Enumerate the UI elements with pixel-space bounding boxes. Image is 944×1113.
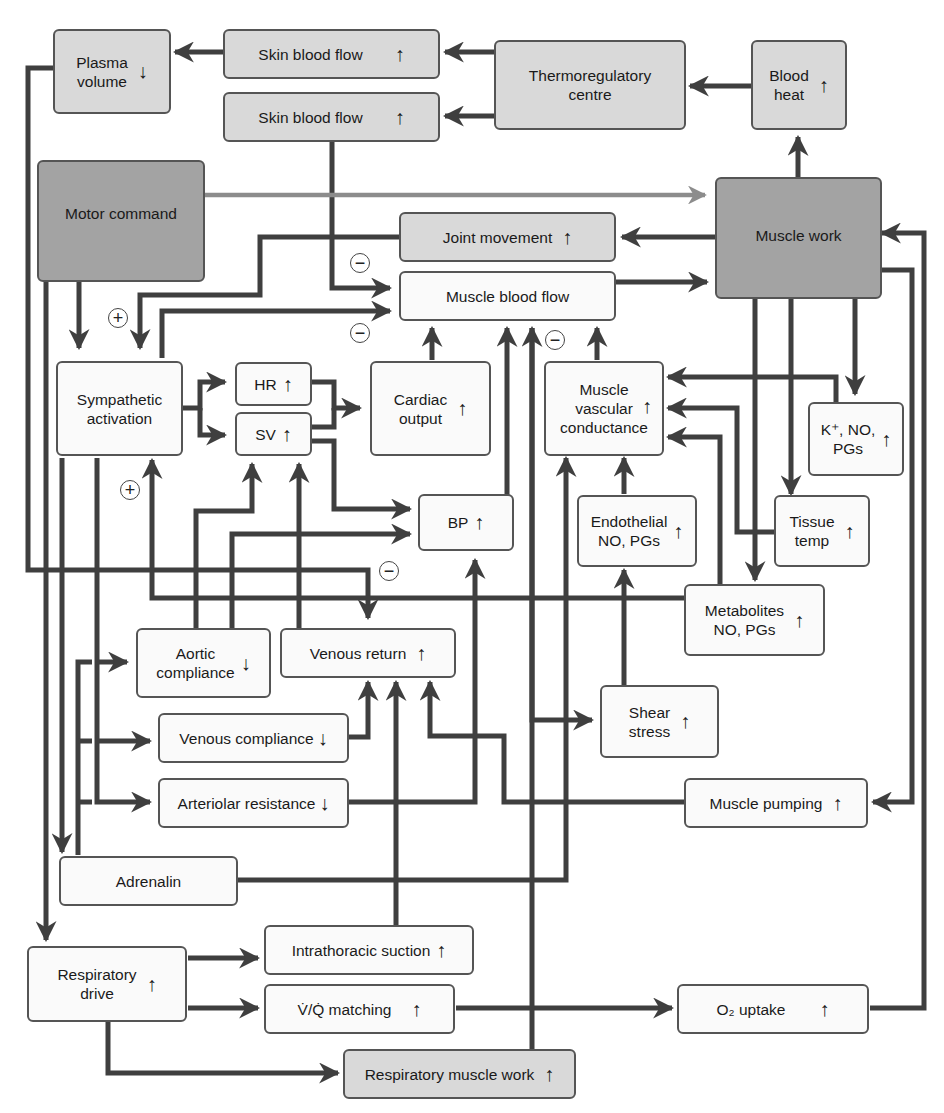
node-label: Aortic compliance bbox=[156, 644, 234, 682]
node-label: Muscle blood flow bbox=[446, 287, 569, 306]
arrow-up-icon: ↑ bbox=[544, 1065, 554, 1084]
node-label: Metabolites NO, PGs bbox=[705, 601, 784, 639]
node-label: Thermoregulatory centre bbox=[529, 66, 651, 104]
arrow-up-icon: ↑ bbox=[680, 712, 690, 731]
plus-sign-icon: + bbox=[108, 308, 128, 328]
arteriolar-resistance-box: Arteriolar resistance ↓ bbox=[158, 778, 349, 828]
arrow-up-icon: ↑ bbox=[395, 45, 405, 64]
arrow-up-icon: ↑ bbox=[411, 1000, 421, 1019]
node-label: SV bbox=[255, 425, 276, 444]
node-label: Intrathoracic suction bbox=[292, 941, 431, 960]
muscle-pumping-box: Muscle pumping ↑ bbox=[684, 778, 868, 828]
hr-box: HR ↑ bbox=[235, 362, 312, 406]
node-label: V̇/Q̇ matching bbox=[298, 1000, 392, 1019]
node-label: Motor command bbox=[65, 204, 177, 223]
node-label: Adrenalin bbox=[116, 872, 182, 891]
muscle-blood-flow-box: Muscle blood flow bbox=[399, 271, 616, 321]
arrow-down-icon: ↓ bbox=[241, 654, 251, 673]
adrenalin-box: Adrenalin bbox=[59, 856, 238, 906]
skin-blood-flow-box-1: Skin blood flow ↑ bbox=[223, 29, 440, 79]
node-label: Endothelial NO, PGs bbox=[591, 512, 668, 550]
node-label: Plasma volume bbox=[76, 53, 128, 91]
physiology-flow-diagram: Plasma volume ↓ Skin blood flow ↑ Skin b… bbox=[0, 0, 944, 1113]
arrow-up-icon: ↑ bbox=[457, 399, 467, 418]
k-no-pgs-box: K⁺, NO, PGs ↑ bbox=[808, 402, 904, 476]
shear-stress-box: Shear stress ↑ bbox=[600, 685, 719, 758]
bp-box: BP ↑ bbox=[418, 494, 514, 551]
skin-blood-flow-box-2: Skin blood flow ↑ bbox=[223, 92, 440, 142]
node-label: O₂ uptake bbox=[717, 1000, 786, 1019]
metabolites-box: Metabolites NO, PGs ↑ bbox=[684, 584, 825, 656]
node-label: Skin blood flow bbox=[258, 108, 362, 127]
arrow-up-icon: ↑ bbox=[642, 397, 652, 416]
node-label: Skin blood flow bbox=[258, 45, 362, 64]
aortic-compliance-box: Aortic compliance ↓ bbox=[136, 628, 271, 698]
arrow-up-icon: ↑ bbox=[395, 108, 405, 127]
arrow-up-icon: ↑ bbox=[881, 430, 891, 449]
node-label: Shear stress bbox=[629, 703, 670, 741]
venous-compliance-box: Venous compliance ↓ bbox=[158, 713, 349, 763]
node-label: Muscle work bbox=[755, 226, 841, 245]
venous-return-box: Venous return ↑ bbox=[280, 628, 456, 678]
muscle-work-box: Muscle work bbox=[715, 177, 882, 299]
node-label: Tissue temp bbox=[789, 512, 834, 550]
plus-sign-icon: + bbox=[120, 480, 140, 500]
node-label: Respiratory muscle work bbox=[365, 1065, 535, 1084]
plasma-volume-box: Plasma volume ↓ bbox=[53, 29, 171, 114]
node-label: K⁺, NO, PGs bbox=[821, 420, 876, 458]
node-label: Sympathetic activation bbox=[77, 390, 162, 428]
node-label: Venous return bbox=[310, 644, 407, 663]
vq-matching-box: V̇/Q̇ matching ↑ bbox=[264, 984, 455, 1034]
node-label: BP bbox=[448, 513, 469, 532]
node-label: HR bbox=[254, 375, 276, 394]
arrow-down-icon: ↓ bbox=[318, 729, 328, 748]
arrow-down-icon: ↓ bbox=[319, 794, 329, 813]
arrow-down-icon: ↓ bbox=[138, 62, 148, 81]
minus-sign-icon: − bbox=[350, 323, 370, 343]
arrow-up-icon: ↑ bbox=[673, 522, 683, 541]
arrow-up-icon: ↑ bbox=[416, 644, 426, 663]
node-label: Muscle vascular conductance bbox=[560, 380, 648, 437]
arrow-up-icon: ↑ bbox=[562, 228, 572, 247]
minus-sign-icon: − bbox=[545, 330, 565, 350]
minus-sign-icon: − bbox=[379, 561, 399, 581]
muscle-vascular-conductance-box: Muscle vascular conductance ↑ bbox=[544, 361, 664, 456]
node-label: Respiratory drive bbox=[57, 965, 136, 1003]
arrow-up-icon: ↑ bbox=[282, 425, 292, 444]
arrow-up-icon: ↑ bbox=[147, 975, 157, 994]
sympathetic-activation-box: Sympathetic activation bbox=[56, 361, 183, 456]
endothelial-no-pgs-box: Endothelial NO, PGs ↑ bbox=[577, 495, 697, 567]
o2-uptake-box: O₂ uptake ↑ bbox=[677, 984, 869, 1034]
arrow-up-icon: ↑ bbox=[283, 375, 293, 394]
node-label: Arteriolar resistance bbox=[178, 794, 316, 813]
arrow-up-icon: ↑ bbox=[819, 76, 829, 95]
arrow-up-icon: ↑ bbox=[845, 522, 855, 541]
arrow-up-icon: ↑ bbox=[794, 611, 804, 630]
joint-movement-box: Joint movement ↑ bbox=[399, 212, 616, 262]
arrow-up-icon: ↑ bbox=[819, 1000, 829, 1019]
respiratory-muscle-work-box: Respiratory muscle work ↑ bbox=[343, 1049, 576, 1099]
blood-heat-box: Blood heat ↑ bbox=[751, 40, 847, 130]
arrow-up-icon: ↑ bbox=[474, 513, 484, 532]
node-label: Blood heat bbox=[769, 66, 809, 104]
node-label: Muscle pumping bbox=[710, 794, 823, 813]
arrow-up-icon: ↑ bbox=[436, 941, 446, 960]
arrow-up-icon: ↑ bbox=[832, 794, 842, 813]
node-label: Venous compliance bbox=[179, 729, 313, 748]
cardiac-output-box: Cardiac output ↑ bbox=[370, 361, 491, 456]
respiratory-drive-box: Respiratory drive ↑ bbox=[27, 946, 187, 1022]
intrathoracic-suction-box: Intrathoracic suction ↑ bbox=[264, 925, 474, 975]
node-label: Cardiac output bbox=[394, 390, 447, 428]
node-label: Joint movement bbox=[443, 228, 552, 247]
thermoregulatory-centre-box: Thermoregulatory centre bbox=[494, 40, 686, 130]
tissue-temp-box: Tissue temp ↑ bbox=[774, 495, 870, 567]
motor-command-box: Motor command bbox=[37, 160, 205, 282]
sv-box: SV ↑ bbox=[235, 412, 312, 456]
minus-sign-icon: − bbox=[350, 253, 370, 273]
